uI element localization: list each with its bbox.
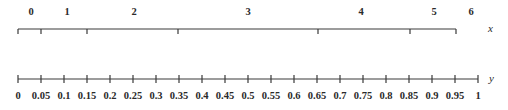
x-segment-label: 5	[431, 6, 436, 17]
x-axis	[18, 29, 456, 34]
y-tick-label: 0.75	[354, 90, 372, 101]
y-tick-label: 0.6	[287, 90, 300, 101]
y-tick-label: 0.15	[78, 90, 96, 101]
x-segment-label: 1	[64, 6, 69, 17]
x-segment-label: 0	[28, 6, 33, 17]
y-tick-label: 0.3	[149, 90, 162, 101]
x-axis-name: x	[488, 22, 493, 34]
x-segment-label: 6	[468, 6, 473, 17]
y-tick-label: 1	[475, 90, 480, 101]
y-tick-label: 0.45	[216, 90, 234, 101]
y-axis	[18, 75, 478, 83]
y-tick-label: 0.35	[170, 90, 188, 101]
x-segment-label: 2	[131, 6, 136, 17]
y-tick-label: 0.65	[308, 90, 326, 101]
y-tick-label: 0.8	[379, 90, 392, 101]
y-tick-label: 0.85	[400, 90, 418, 101]
y-axis-name: y	[489, 72, 494, 84]
y-tick-label: 0.5	[241, 90, 254, 101]
y-tick-label: 0.05	[32, 90, 50, 101]
x-segment-label: 4	[358, 6, 363, 17]
y-tick-label: 0.7	[333, 90, 346, 101]
y-tick-label: 0.1	[57, 90, 70, 101]
x-segment-label: 3	[245, 6, 250, 17]
y-tick-label: 0	[15, 90, 20, 101]
y-tick-label: 0.55	[262, 90, 280, 101]
y-tick-label: 0.4	[195, 90, 208, 101]
y-tick-label: 0.9	[425, 90, 438, 101]
y-tick-label: 0.25	[124, 90, 142, 101]
y-tick-label: 0.2	[103, 90, 116, 101]
y-tick-label: 0.95	[446, 90, 464, 101]
